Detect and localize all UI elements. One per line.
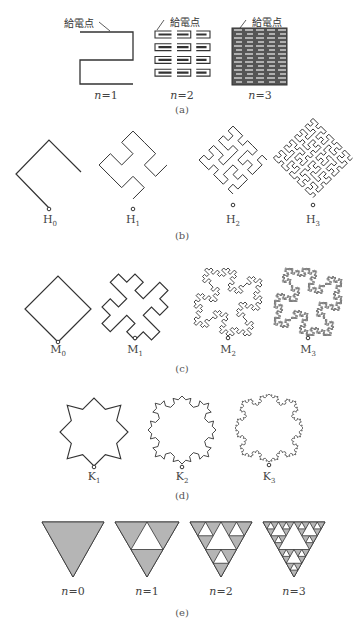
feed-pointer-1: [99, 22, 110, 31]
label-e-n0: n=0: [61, 585, 84, 598]
k2-feed-dot: [180, 465, 184, 469]
sierpinski-cell: [213, 563, 229, 577]
label-e-n1: n=1: [135, 585, 158, 598]
feed-pointer-3: [240, 20, 246, 28]
label-h1: H1: [126, 213, 140, 228]
caption-d: (d): [175, 490, 189, 501]
meander-n2-seg: [196, 34, 206, 35]
label-k1: K1: [88, 470, 101, 485]
meander-n2-seg: [177, 47, 188, 48]
meander-n2-seg: [196, 69, 210, 76]
label-k2: K2: [176, 470, 189, 485]
meander-n1: [80, 32, 133, 84]
minkowski-m3: [274, 268, 342, 336]
feed-pointer-2: [157, 20, 164, 30]
minkowski-m2: [194, 268, 262, 336]
caption-e: (e): [175, 607, 189, 618]
h3-feed-dot: [311, 203, 315, 207]
label-k3: K3: [263, 470, 276, 485]
m3-feed-dot: [306, 336, 310, 340]
meander-n2-seg: [196, 59, 206, 60]
meander-n2-seg: [155, 69, 172, 76]
sierpinski-cell: [42, 522, 104, 577]
caption-c: (c): [175, 363, 188, 374]
meander-n2-seg: [155, 57, 172, 64]
label-m1: M1: [127, 343, 143, 358]
m2-feed-dot: [226, 336, 230, 340]
minkowski-m1: [102, 274, 168, 340]
m1-feed-dot: [133, 336, 137, 340]
koch-k1: [60, 398, 128, 466]
label-e-n3: n=3: [282, 585, 305, 598]
hilbert-h1: [99, 131, 167, 199]
meander-n2-seg: [177, 57, 191, 64]
h0-feed-dot: [47, 207, 51, 211]
label-m3: M3: [300, 343, 316, 358]
meander-n2-seg: [159, 47, 172, 48]
label-m0: M0: [50, 343, 66, 358]
meander-n2-seg: [177, 44, 191, 51]
label-a-n1: n=1: [94, 89, 117, 102]
label-h3: H3: [306, 213, 320, 228]
meander-n2-seg: [177, 31, 191, 38]
meander-n2-seg: [196, 47, 206, 48]
k3-feed-dot: [267, 463, 271, 467]
hilbert-h3: [273, 118, 352, 197]
meander-n2-seg: [159, 59, 172, 60]
label-a-n2: n=2: [170, 89, 193, 102]
meander-n2-seg: [196, 31, 210, 38]
koch-k2: [148, 396, 216, 464]
caption-b: (b): [175, 230, 189, 241]
hilbert-h2: [199, 126, 267, 194]
k1-feed-dot: [92, 465, 96, 469]
feed-point-label-2: 給電点: [170, 14, 200, 29]
hilbert-h0: [16, 140, 81, 208]
sierpinski-cell: [290, 570, 298, 577]
caption-a: (a): [175, 104, 189, 115]
koch-k3: [235, 394, 303, 462]
minkowski-m0: [25, 276, 91, 342]
meander-n2-seg: [159, 34, 172, 35]
meander-n2-seg: [177, 59, 188, 60]
meander-n2-seg: [155, 31, 172, 38]
meander-n2-seg: [177, 69, 191, 76]
meander-n2-seg: [177, 72, 188, 73]
meander-n2-seg: [196, 72, 206, 73]
h1-feed-dot: [131, 207, 135, 211]
label-h2: H2: [226, 213, 240, 228]
meander-n2-seg: [196, 44, 210, 51]
meander-n2-seg: [155, 44, 172, 51]
h2-feed-dot: [231, 203, 235, 207]
feed-point-label-1: 給電点: [64, 15, 94, 30]
label-a-n3: n=3: [248, 89, 271, 102]
label-e-n2: n=2: [209, 585, 232, 598]
meander-n3-block: [232, 28, 287, 85]
meander-n2-seg: [177, 34, 188, 35]
label-h0: H0: [43, 213, 57, 228]
feed-point-label-3: 給電点: [252, 14, 282, 29]
meander-n2-seg: [159, 72, 172, 73]
meander-n2-seg: [196, 57, 210, 64]
sierpinski-cell: [131, 550, 163, 578]
label-m2: M2: [220, 343, 236, 358]
